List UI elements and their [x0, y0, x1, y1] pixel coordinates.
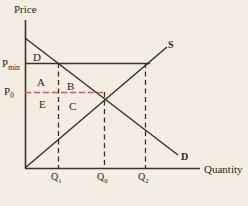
demand-curve [25, 38, 178, 155]
p-min-subscript: min [8, 63, 20, 72]
q0-subscript: 0 [104, 177, 107, 184]
x-axis-title: Quantity [204, 164, 243, 175]
supply-demand-figure: Price Quantity Pmin P0 S D D A B E C Q1 … [0, 0, 248, 206]
demand-curve-label: D [181, 152, 188, 162]
equilibrium-price-label: P0 [4, 86, 14, 100]
region-label-b: B [67, 81, 74, 92]
q2-tick-label: Q2 [138, 172, 149, 185]
q0-tick-label: Q0 [97, 172, 108, 185]
q1-tick-label: Q1 [51, 172, 62, 185]
price-floor-label: Pmin [2, 58, 20, 72]
region-label-a: A [37, 77, 45, 88]
region-label-e: E [39, 99, 46, 110]
q2-subscript: 2 [145, 177, 148, 184]
diagram-canvas [0, 0, 248, 206]
y-axis-title: Price [14, 4, 37, 15]
p0-subscript: 0 [10, 91, 14, 100]
q1-subscript: 1 [58, 177, 61, 184]
region-label-d: D [33, 52, 41, 63]
supply-curve-label: S [168, 40, 174, 50]
region-label-c: C [69, 101, 76, 112]
